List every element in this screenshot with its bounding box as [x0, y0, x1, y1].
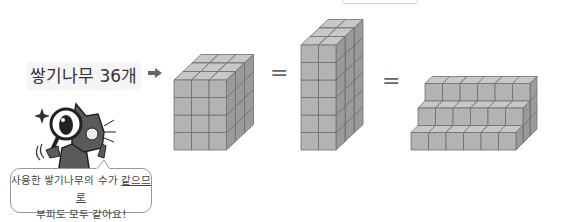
bubble-tail	[96, 160, 112, 170]
bubble-line1-prefix: 사용한 쌓기나무의 수가	[11, 174, 121, 186]
sparkle-icon	[34, 108, 50, 124]
speech-bubble: 사용한 쌓기나무의 수가 같으므로 부피도 모두 같아요!	[10, 168, 152, 213]
bubble-line2: 부피도 모두 같아요!	[11, 206, 151, 222]
